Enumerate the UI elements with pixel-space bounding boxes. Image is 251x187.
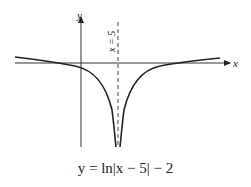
curve-left-branch bbox=[15, 57, 116, 147]
graph: y x x = 5 bbox=[0, 0, 251, 187]
y-axis-label: y bbox=[76, 9, 82, 21]
figure-caption: y = ln|x − 5| − 2 bbox=[0, 160, 251, 177]
asymptote-label: x = 5 bbox=[106, 31, 117, 53]
curve-right-branch bbox=[120, 58, 220, 147]
x-axis-label: x bbox=[232, 57, 238, 69]
